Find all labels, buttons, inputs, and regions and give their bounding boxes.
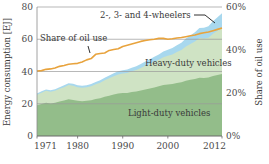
y-tick-20: 20 [22,99,34,109]
x-tick-1990: 1990 [111,141,134,151]
x-tick-2000: 2000 [156,141,179,151]
y2-tick-0pct: 0% [226,131,241,141]
x-tick-2012: 2012 [203,141,226,151]
annotation-light-duty-vehicles: Light-duty vehicles [128,108,210,118]
chart-figure: 020406080 0%20%40%60% 197119801990200020… [0,0,269,164]
x-tick-1971: 1971 [34,141,57,151]
annotation-share-of-oil-use: Share of oil use [40,33,107,43]
y-axis-title: Energy consumption [EJ] [2,18,12,126]
y-tick-60: 60 [22,34,34,44]
annotation-heavy-duty-vehicles: Heavy-duty vehicles [145,58,232,68]
chart-svg: 020406080 0%20%40%60% 197119801990200020… [0,0,269,164]
y-tick-80: 80 [22,2,34,12]
y-tick-0: 0 [27,131,33,141]
y2-tick-20pct: 20% [226,88,246,98]
annotation-2-3-4-wheelers: 2-, 3- and 4-wheelers [100,10,191,20]
y2-tick-60pct: 60% [226,2,246,12]
y2-axis-title: Share of oil use [254,38,264,105]
x-tick-1980: 1980 [66,141,89,151]
y2-tick-40pct: 40% [226,45,246,55]
y-tick-40: 40 [22,67,34,77]
